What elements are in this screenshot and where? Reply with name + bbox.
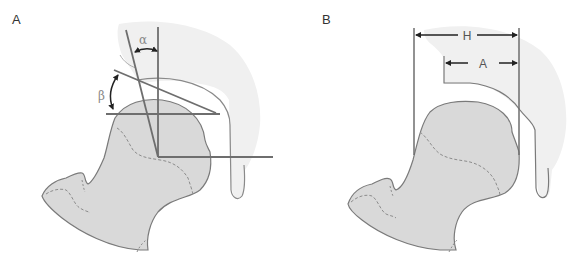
h-label: H — [463, 29, 472, 43]
panel-a-label: A — [12, 12, 21, 27]
beta-label: β — [98, 89, 105, 103]
figure-canvas: A α β B — [0, 0, 575, 264]
alpha-label: α — [139, 33, 147, 47]
a-label: A — [479, 57, 487, 71]
panel-a: A α β — [12, 12, 273, 252]
panel-b-label: B — [322, 12, 331, 27]
panel-b: B H A — [322, 12, 566, 252]
femur-shape — [348, 101, 519, 250]
beta-arc-arrow — [110, 75, 118, 109]
